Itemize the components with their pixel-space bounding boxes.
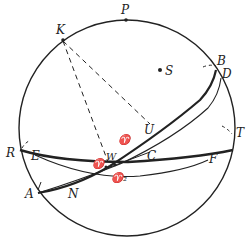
label-n: N [67, 187, 79, 201]
label-t: T [236, 126, 245, 140]
point-s [158, 68, 162, 72]
label-u: U [144, 123, 155, 137]
label-a: A [24, 187, 34, 201]
label-k: K [55, 23, 66, 37]
dashed-line-k-to-u [63, 41, 150, 124]
label-r: R [5, 146, 15, 160]
label-p: P [120, 3, 130, 17]
dashed-tick-a [38, 182, 41, 190]
label-s: S [165, 64, 173, 78]
point-k [61, 38, 65, 42]
label-d: D [221, 67, 232, 81]
label-e: E [30, 149, 40, 163]
label-aries-2: ♈₂ [111, 171, 127, 184]
label-w: W [106, 151, 117, 162]
point-aries [114, 164, 117, 167]
label-aries-1: ♈ [118, 133, 133, 146]
dashed-line-k-to-w [63, 41, 108, 162]
label-b: B [216, 54, 226, 68]
celestial-sphere-diagram: P K S B D R T U C E F W A N ♈ ♈ ♈₂ [0, 0, 251, 251]
dashed-tick-r [22, 141, 29, 148]
dashed-tick-b [203, 65, 216, 67]
label-c: C [147, 149, 156, 163]
point-p [124, 18, 128, 22]
label-f: F [208, 152, 218, 166]
point-w [105, 166, 108, 169]
sphere-outline [19, 20, 235, 236]
dashed-tick-t [222, 126, 232, 134]
